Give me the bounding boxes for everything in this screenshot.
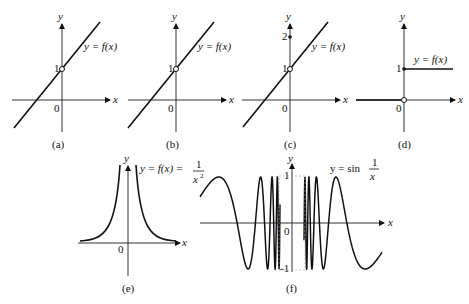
- origin-label: 0: [282, 102, 288, 114]
- y-axis-label: y: [57, 10, 63, 22]
- x-axis-label: x: [387, 216, 393, 228]
- figure-canvas: y x 1 0 y = f(x) (a) y x 1 0 y = f(x) (b…: [0, 0, 469, 304]
- origin-label: 0: [54, 102, 60, 114]
- panel-d: y x 1 0 y = f(x) (d): [356, 10, 463, 151]
- y-axis-label: y: [285, 10, 291, 22]
- y-tick-neg1: -1: [280, 262, 289, 274]
- y-tick-2: 2: [282, 30, 288, 42]
- origin-label: 0: [118, 243, 124, 255]
- function-label: y = f(x) =: [139, 162, 183, 175]
- fraction-denominator: x: [369, 170, 375, 182]
- panel-f: y x 1 -1 0 y = sin 1 x (f): [200, 152, 393, 295]
- fraction-numerator: 1: [372, 156, 378, 168]
- y-axis-label: y: [287, 152, 293, 164]
- caption-f: (f): [286, 282, 297, 295]
- caption-d: (d): [398, 138, 411, 151]
- y-tick-1: 1: [284, 169, 290, 181]
- y-tick-1: 1: [168, 62, 174, 74]
- y-axis-label: y: [123, 152, 129, 164]
- fraction-numerator: 1: [196, 158, 202, 170]
- function-label: y = f(x): [311, 40, 345, 53]
- caption-b: (b): [166, 138, 179, 151]
- caption-a: (a): [52, 138, 65, 151]
- caption-c: (c): [284, 138, 297, 151]
- panel-b: y x 1 0 y = f(x) (b): [128, 10, 234, 151]
- caption-e: (e): [122, 282, 135, 295]
- function-label: y = sin: [330, 162, 361, 174]
- origin-label: 0: [168, 102, 174, 114]
- x-axis-label: x: [181, 236, 187, 248]
- origin-label: 0: [284, 225, 290, 237]
- y-tick-1: 1: [282, 62, 288, 74]
- panel-e: y x 0 y = f(x) = 1 x 2 (e): [78, 152, 204, 295]
- x-axis-label: x: [228, 93, 234, 105]
- x-axis-label: x: [112, 93, 118, 105]
- y-tick-1: 1: [54, 62, 60, 74]
- function-label: y = f(x): [83, 40, 117, 53]
- function-label: y = f(x): [413, 53, 447, 66]
- panel-a: y x 1 0 y = f(x) (a): [12, 10, 118, 151]
- x-axis-label: x: [342, 93, 348, 105]
- origin-label: 0: [396, 102, 402, 114]
- y-tick-1: 1: [396, 62, 402, 74]
- y-axis-label: y: [171, 10, 177, 22]
- panel-c: y x 1 2 0 y = f(x) (c): [242, 10, 348, 151]
- y-axis-label: y: [399, 10, 405, 22]
- x-axis-label: x: [457, 93, 463, 105]
- exponent: 2: [200, 172, 204, 180]
- fraction-denominator: x: [192, 173, 198, 185]
- function-label: y = f(x): [197, 40, 231, 53]
